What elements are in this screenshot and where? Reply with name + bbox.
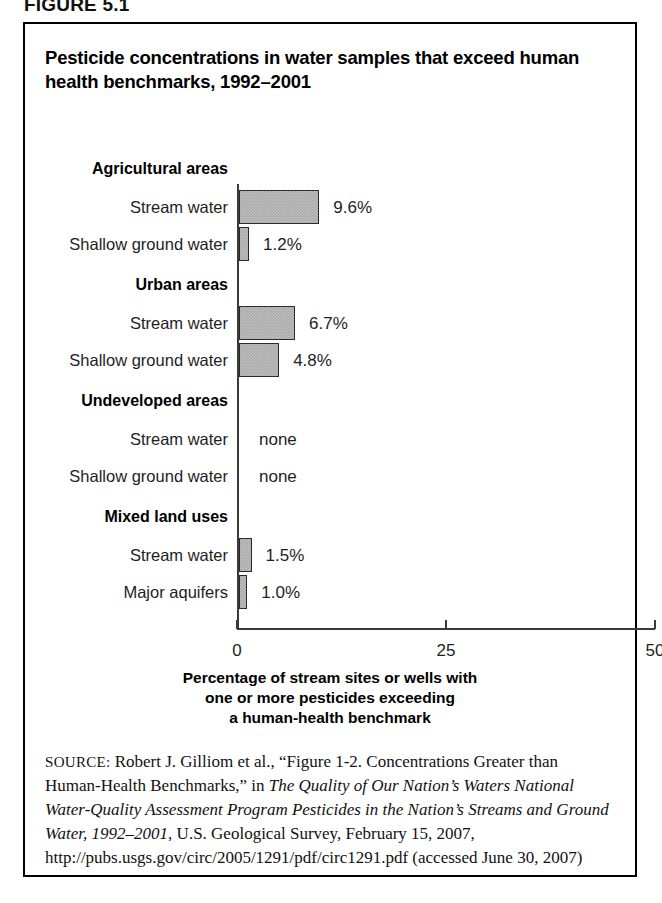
bar-value-label: 1.5% bbox=[266, 546, 305, 566]
bar bbox=[239, 343, 279, 377]
bar bbox=[239, 538, 252, 572]
row-category-label: Shallow ground water bbox=[0, 467, 228, 486]
group-label: Agricultural areas bbox=[0, 160, 228, 178]
bar bbox=[239, 306, 295, 340]
source-note: SOURCE: Robert J. Gilliom et al., “Figur… bbox=[45, 750, 617, 870]
x-axis-title-line: Percentage of stream sites or wells with bbox=[25, 668, 635, 688]
row-category-label: Shallow ground water bbox=[0, 351, 228, 370]
x-axis-title: Percentage of stream sites or wells with… bbox=[25, 668, 635, 728]
bar-value-label: 4.8% bbox=[293, 351, 332, 371]
x-axis-tick-label: 25 bbox=[437, 641, 456, 661]
page-title: Pesticide concentrations in water sample… bbox=[45, 46, 611, 94]
row-category-label: Stream water bbox=[0, 430, 228, 449]
row-category-label: Shallow ground water bbox=[0, 235, 228, 254]
figure-box: Pesticide concentrations in water sample… bbox=[23, 22, 637, 877]
bar bbox=[239, 227, 249, 261]
bar-value-label: 9.6% bbox=[333, 198, 372, 218]
row-category-label: Stream water bbox=[0, 546, 228, 565]
x-axis-title-line: one or more pesticides exceeding bbox=[25, 688, 635, 708]
x-axis-tick bbox=[236, 620, 238, 629]
x-axis-tick bbox=[445, 620, 447, 629]
bar-value-label: none bbox=[259, 467, 297, 487]
row-category-label: Major aquifers bbox=[0, 583, 228, 602]
x-axis-tick-label: 50 bbox=[646, 641, 662, 661]
group-label: Undeveloped areas bbox=[0, 392, 228, 410]
bar-chart: 02550 Agricultural areasStream water9.6%… bbox=[25, 152, 635, 737]
x-axis-title-line: a human-health benchmark bbox=[25, 708, 635, 728]
group-label: Mixed land uses bbox=[0, 508, 228, 526]
bar-value-label: 1.2% bbox=[263, 235, 302, 255]
row-category-label: Stream water bbox=[0, 198, 228, 217]
bar-value-label: 6.7% bbox=[309, 314, 348, 334]
row-category-label: Stream water bbox=[0, 314, 228, 333]
bar-value-label: none bbox=[259, 430, 297, 450]
x-axis-tick bbox=[654, 620, 656, 629]
group-label: Urban areas bbox=[0, 276, 228, 294]
source-label: SOURCE: bbox=[45, 754, 110, 770]
bar bbox=[239, 190, 319, 224]
x-axis-tick-label: 0 bbox=[232, 641, 241, 661]
figure-kicker: FIGURE 5.1 bbox=[24, 0, 129, 16]
bar-value-label: 1.0% bbox=[261, 583, 300, 603]
bar bbox=[239, 575, 247, 609]
